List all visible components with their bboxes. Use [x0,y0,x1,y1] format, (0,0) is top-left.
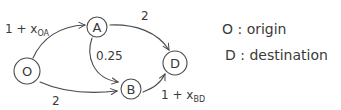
legend-destination: D : destination [225,47,328,63]
edge-a-to-b: 0.25 [90,38,123,82]
node-destination: D [163,51,187,75]
edge-o-to-b: 2 [40,82,117,108]
node-origin: O [14,58,40,84]
legend: O : origin D : destination [222,21,328,63]
network-diagram: 1 + xOA 2 0.25 2 1 + xBD O [0,0,341,110]
node-b: B [121,79,141,99]
edge-label-ab: 0.25 [96,49,123,63]
edge-o-to-a: 1 + xOA [5,22,85,58]
edge-label-bd: 1 + xBD [161,88,205,104]
edge-label-oa: 1 + xOA [5,22,50,38]
edge-label-ad: 2 [141,9,149,23]
edge-b-to-d: 1 + xBD [143,74,205,104]
svg-text:D: D [170,56,180,71]
node-a: A [87,17,107,37]
edge-label-ob: 2 [52,94,60,108]
edge-a-to-d: 2 [110,9,169,50]
svg-text:B: B [127,82,136,97]
legend-origin: O : origin [222,21,287,37]
svg-text:A: A [93,20,102,35]
svg-text:O: O [22,64,32,79]
